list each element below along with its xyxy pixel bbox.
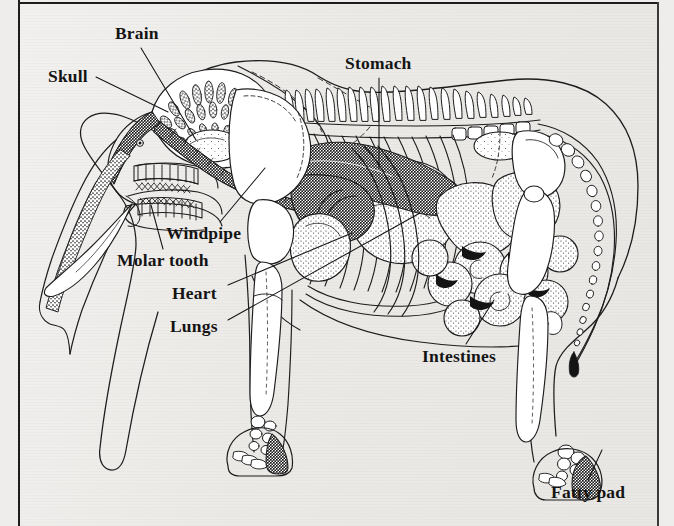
molar-tooth-leader — [151, 205, 163, 249]
hindleg — [508, 186, 602, 500]
label-intestines: Intestines — [422, 348, 496, 366]
label-skull: Skull — [48, 68, 88, 86]
label-heart: Heart — [172, 285, 217, 303]
figure-page: Brain Skull Stomach Windpipe Molar tooth… — [0, 0, 674, 526]
label-stomach: Stomach — [345, 55, 412, 73]
label-lungs: Lungs — [170, 318, 218, 336]
label-windpipe: Windpipe — [166, 225, 241, 243]
label-molar-tooth: Molar tooth — [117, 252, 209, 270]
elephant-anatomy-illustration — [0, 0, 674, 526]
label-fatty-pad: Fatty pad — [551, 484, 625, 502]
label-brain: Brain — [115, 25, 159, 43]
skull-leader — [96, 77, 168, 112]
